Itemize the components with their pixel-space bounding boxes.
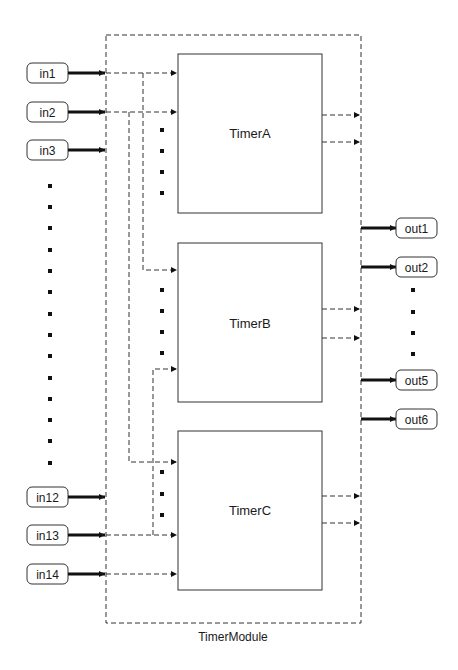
- block-timer-a[interactable]: TimerA: [178, 54, 322, 213]
- input-port-label: in13: [36, 529, 59, 543]
- input-port-in1[interactable]: in1: [27, 63, 105, 83]
- block-timer-c[interactable]: TimerC: [178, 431, 322, 590]
- input-port-label: in14: [36, 568, 59, 582]
- output-port-label: out1: [405, 222, 429, 236]
- block-timer-b[interactable]: TimerB: [178, 243, 322, 402]
- timer-c-input-ellipsis: [160, 470, 164, 517]
- input-port-label: in12: [36, 491, 59, 505]
- input-port-in2[interactable]: in2: [27, 102, 105, 122]
- wire-in2-to-timer-c: [129, 112, 177, 462]
- module-label: TimerModule: [198, 630, 268, 644]
- timer-module-diagram: TimerModule TimerA TimerB TimerC in1 in2…: [0, 0, 458, 670]
- output-port-out1[interactable]: out1: [361, 218, 437, 238]
- input-port-label: in2: [39, 106, 55, 120]
- output-port-out5[interactable]: out5: [361, 370, 437, 390]
- input-port-in14[interactable]: in14: [27, 564, 105, 584]
- input-ellipsis: [48, 184, 52, 465]
- output-port-label: out6: [405, 413, 429, 427]
- block-timer-a-label: TimerA: [229, 126, 271, 141]
- output-port-label: out2: [405, 261, 429, 275]
- input-port-label: in3: [39, 144, 55, 158]
- input-port-in3[interactable]: in3: [27, 140, 105, 160]
- timer-b-input-ellipsis: [160, 288, 164, 355]
- input-port-in12[interactable]: in12: [27, 487, 105, 507]
- input-port-in13[interactable]: in13: [27, 525, 105, 545]
- output-ellipsis: [411, 288, 415, 356]
- output-port-label: out5: [405, 374, 429, 388]
- input-port-label: in1: [39, 67, 55, 81]
- block-timer-b-label: TimerB: [229, 316, 270, 331]
- output-port-out2[interactable]: out2: [361, 257, 437, 277]
- wire-in13-to-timer-b: [153, 369, 177, 535]
- timer-a-input-ellipsis: [160, 128, 164, 195]
- block-timer-c-label: TimerC: [229, 503, 271, 518]
- output-port-out6[interactable]: out6: [361, 409, 437, 429]
